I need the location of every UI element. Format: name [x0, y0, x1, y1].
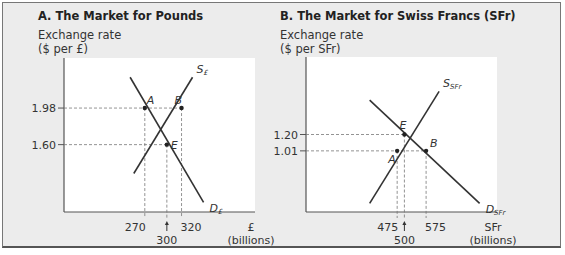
panel-a-ytick-label: 1.98	[32, 102, 57, 115]
panel-b-ytick-label: 1.01	[274, 145, 299, 158]
panel-a-xlabel-unit: £	[248, 221, 255, 234]
panel-a-ytick-label: 1.60	[32, 139, 57, 152]
panel-a-point-e	[165, 142, 169, 146]
panel-a-arrow-head	[165, 221, 169, 225]
panel-b-xtick-label: 500	[394, 234, 415, 247]
panel-a-plot-area	[64, 58, 255, 212]
panel-a-xtick-label: 300	[156, 234, 177, 247]
panel-a-point-label-b: B	[175, 94, 183, 107]
panel-a-xtick-label: 270	[125, 221, 146, 234]
panel-a-xtick-label: 320	[181, 221, 202, 234]
panel-b-xlabel-billions: (billions)	[469, 234, 516, 247]
panel-a-point-label-a: A	[146, 94, 155, 107]
panel-b-point-e	[402, 132, 406, 136]
panel-b-point-b	[424, 149, 428, 153]
panel-a-xlabel-billions: (billions)	[227, 234, 274, 247]
panel-b-xlabel-unit: SFr	[484, 221, 502, 234]
panel-b-point-label-b: B	[430, 137, 438, 150]
panel-b-point-label-e: E	[399, 119, 406, 132]
panel-b-point-label-a: A	[387, 153, 396, 166]
panel-b-arrow-head	[402, 221, 406, 225]
panel-b-xtick-label: 475	[377, 221, 398, 234]
panel-b-ytick-label: 1.20	[274, 129, 299, 142]
panel-b-xtick-label: 575	[425, 221, 446, 234]
panel-a-point-label-e: E	[171, 139, 178, 152]
charts-svg: 1.981.60270300320S£D£ABE£(billions)1.201…	[0, 0, 565, 255]
